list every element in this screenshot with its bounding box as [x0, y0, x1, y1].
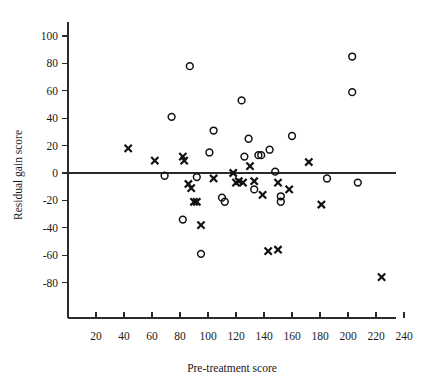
data-point-circle [186, 63, 193, 70]
x-axis-tick-label: 120 [227, 330, 245, 342]
data-point-cross [151, 157, 158, 164]
data-point-circle [193, 174, 200, 181]
data-point-circle [245, 135, 252, 142]
y-axis-title: Residual gain score [12, 130, 25, 220]
x-axis-tick-label: 40 [118, 330, 130, 342]
y-axis-tick-label: -60 [43, 249, 59, 261]
data-point-circle [241, 153, 248, 160]
data-point-cross [246, 163, 253, 170]
data-point-cross [378, 274, 385, 281]
scatter-plot-figure: 100806040200-20-40-60-80 204060801001201… [0, 0, 424, 386]
data-point-cross [259, 191, 266, 198]
data-point-cross [318, 201, 325, 208]
x-axis-title: Pre-treatment score [187, 362, 277, 374]
data-point-circle [251, 186, 258, 193]
data-point-circle [168, 113, 175, 120]
x-axis-tick-label: 100 [199, 330, 217, 342]
y-axis-tick-label: 40 [47, 112, 59, 124]
x-axis-tick-label: 180 [311, 330, 329, 342]
data-point-circle [179, 216, 186, 223]
series-circle-group [161, 53, 361, 257]
data-point-circle [266, 146, 273, 153]
plot-canvas: 100806040200-20-40-60-80 204060801001201… [0, 0, 424, 386]
x-axis-tick-label: 200 [339, 330, 357, 342]
data-point-circle [349, 53, 356, 60]
x-axis-tick-label: 240 [395, 330, 413, 342]
x-axis-tick-label: 20 [90, 330, 102, 342]
data-points-layer [125, 53, 386, 281]
series-cross-group [125, 145, 386, 281]
x-axis-tick-label: 60 [146, 330, 158, 342]
y-axis-tick-label: 60 [47, 85, 59, 97]
y-axis-tick-label: 80 [47, 57, 59, 69]
data-point-cross [197, 221, 204, 228]
x-axis-tick-label: 80 [174, 330, 186, 342]
data-point-circle [210, 127, 217, 134]
x-axis: 20406080100120140160180200220240 [68, 312, 413, 342]
data-point-cross [265, 247, 272, 254]
data-point-cross [286, 186, 293, 193]
data-point-circle [354, 179, 361, 186]
x-axis-tick-label: 140 [255, 330, 273, 342]
data-point-cross [274, 179, 281, 186]
y-axis-tick-label: 100 [41, 30, 59, 42]
data-point-circle [289, 133, 296, 140]
data-point-cross [125, 145, 132, 152]
data-point-cross [210, 175, 217, 182]
data-point-cross [274, 246, 281, 253]
x-axis-tick-label: 220 [367, 330, 385, 342]
y-axis-tick-label: -20 [43, 194, 59, 206]
data-point-circle [198, 250, 205, 257]
data-point-cross [251, 178, 258, 185]
y-axis-tick-label: -40 [43, 222, 59, 234]
data-point-circle [272, 168, 279, 175]
data-point-cross [305, 158, 312, 165]
y-axis-tick-label: 20 [47, 140, 59, 152]
y-axis-tick-label: 0 [52, 167, 58, 179]
data-point-circle [206, 149, 213, 156]
data-point-circle [238, 97, 245, 104]
y-axis-tick-label: -80 [43, 277, 59, 289]
x-axis-tick-label: 160 [283, 330, 301, 342]
data-point-circle [349, 89, 356, 96]
data-point-circle [324, 175, 331, 182]
y-axis: 100806040200-20-40-60-80 [41, 22, 68, 318]
